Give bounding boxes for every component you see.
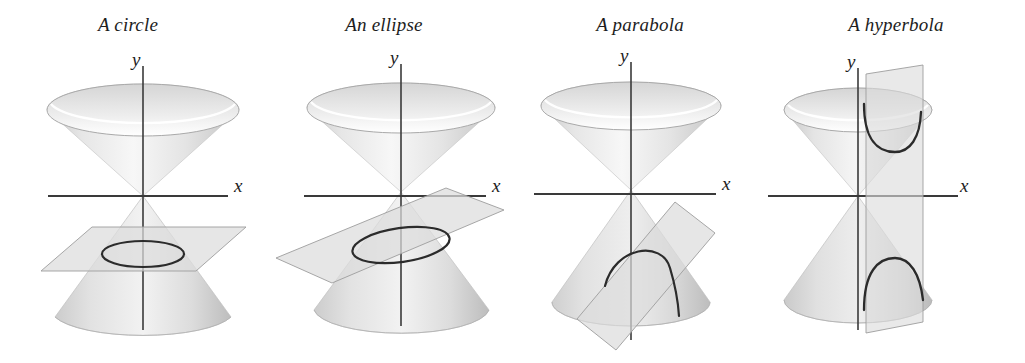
conic-sections-figure: A circle [0, 0, 1025, 363]
panel-parabola: A parabola [512, 0, 768, 363]
y-axis-label: y [845, 51, 856, 72]
panel-ellipse: An ellipse [256, 0, 512, 363]
diagram-parabola: y x [512, 0, 768, 363]
y-axis-label: y [130, 49, 141, 70]
diagram-hyperbola: y x [768, 0, 1025, 363]
y-axis-label: y [388, 47, 399, 68]
x-axis-label: x [959, 175, 969, 196]
cutting-plane [866, 65, 923, 333]
x-axis-label: x [491, 175, 501, 196]
diagram-circle: y x [0, 0, 256, 363]
diagram-ellipse: y x [256, 0, 512, 363]
x-axis-label: x [721, 173, 731, 194]
panel-hyperbola: A hyperbola [768, 0, 1024, 363]
x-axis-label: x [233, 175, 243, 196]
y-axis-label: y [618, 45, 629, 66]
panel-circle: A circle [0, 0, 256, 363]
cutting-plane [41, 227, 246, 271]
